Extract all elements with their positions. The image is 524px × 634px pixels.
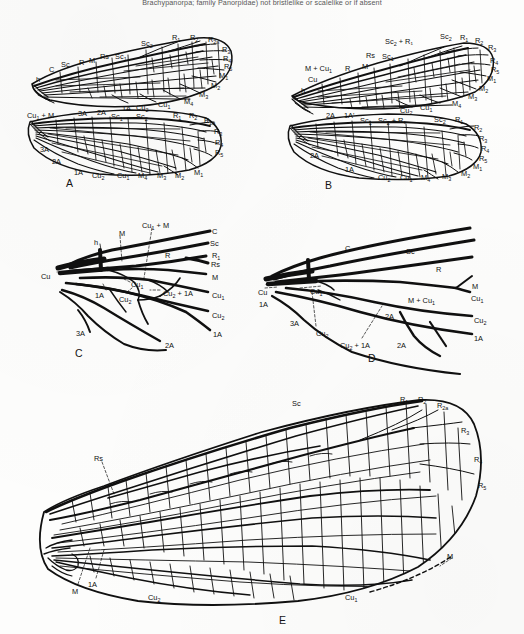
vein-label-b-forewing: M3 xyxy=(468,93,477,100)
vein-label-a-forewing: h xyxy=(36,76,40,83)
vein-label-a-hindwing: 3A xyxy=(78,110,87,117)
vein-label-b-forewing: Cu2 xyxy=(400,107,412,114)
vein-label-b-forewing: R xyxy=(345,65,350,72)
vein-label-a-forewing: R5 xyxy=(224,63,232,70)
vein-label-b-forewing: M2 xyxy=(479,85,488,92)
figure-letter-e: E xyxy=(279,614,286,626)
vein-label-b-forewing: M1 xyxy=(487,75,496,82)
vein-label-b-hindwing: M3 xyxy=(442,173,451,180)
vein-label-c: Cu2 + 1A xyxy=(163,290,193,297)
vein-label-e: M xyxy=(447,553,453,560)
vein-label-a-forewing: Cu1 xyxy=(158,101,170,108)
vein-label-a-forewing: R3 xyxy=(222,46,230,53)
vein-label-c: Rs xyxy=(211,261,220,268)
vein-label-a-hindwing: R4 xyxy=(215,139,223,146)
vein-label-a-hindwing: 2A xyxy=(52,158,61,165)
vein-label-b-forewing: Cu xyxy=(308,76,317,83)
vein-label-a-forewing: M3 xyxy=(199,91,208,98)
vein-label-d: M xyxy=(472,283,478,290)
vein-label-a-forewing: R xyxy=(79,59,84,66)
vein-label-c: Cu xyxy=(41,273,50,280)
vein-label-a-hindwing: R2 xyxy=(189,112,197,119)
vein-label-c: 3A xyxy=(76,330,85,337)
vein-label-e: R5 xyxy=(478,482,486,489)
vein-label-e: M xyxy=(72,588,78,595)
vein-label-b-forewing: R4 xyxy=(490,57,498,64)
figure-e-full-wing xyxy=(40,400,481,605)
vein-label-e: R3 xyxy=(461,427,469,434)
vein-label-b-forewing: Rs xyxy=(366,52,375,59)
vein-label-a-hindwing: Cu1 + M xyxy=(27,112,54,119)
vein-label-b-hindwing: R3 xyxy=(479,135,487,142)
vein-label-d: 2A xyxy=(397,342,406,349)
vein-label-c: R xyxy=(165,252,170,259)
vein-label-c: 2A xyxy=(165,342,174,349)
vein-label-a-forewing: 2A xyxy=(97,109,106,116)
vein-label-b-hindwing: 1A xyxy=(345,166,354,173)
vein-label-a-forewing: R2a xyxy=(208,36,219,43)
vein-label-b-hindwing: Cu1 xyxy=(400,174,412,181)
vein-label-a-forewing: R1 xyxy=(172,34,180,41)
wing-venation-drawings xyxy=(0,0,524,634)
vein-label-e: R2 xyxy=(418,396,426,403)
vein-label-a-hindwing: M1 xyxy=(194,169,203,176)
vein-label-b-forewing: 1A' xyxy=(344,112,354,119)
vein-label-a-forewing: Sc1 xyxy=(115,53,127,60)
vein-label-d: Cu1 xyxy=(310,288,322,295)
vein-label-a-forewing: M2 xyxy=(211,82,220,89)
vein-label-b-forewing: R5 xyxy=(491,66,499,73)
vein-label-e: Cu2 xyxy=(148,594,160,601)
vein-label-a-forewing: 1A xyxy=(122,105,131,112)
vein-label-b-forewing: M xyxy=(362,63,368,70)
vein-label-d: C xyxy=(345,245,350,252)
vein-label-b-forewing: Cu1 xyxy=(420,104,432,111)
vein-label-c: Sc xyxy=(210,240,219,247)
vein-label-b-hindwing: Sc2 xyxy=(434,116,446,123)
vein-label-c: h xyxy=(94,239,98,246)
vein-label-b-hindwing: Sc2 + R₁ xyxy=(378,117,406,124)
vein-label-e: Cu1 xyxy=(345,594,357,601)
vein-label-d: 1A xyxy=(259,301,268,308)
vein-label-c: Cu2 xyxy=(212,312,224,319)
figure-plate: Brachypanorpa; family Panorpidae) not br… xyxy=(0,0,524,634)
vein-label-a-forewing: M xyxy=(89,57,95,64)
vein-label-e: Sc xyxy=(292,400,301,407)
vein-label-b-forewing: 2A xyxy=(326,112,335,119)
vein-label-b-hindwing: Cu2 xyxy=(378,174,390,181)
vein-label-b-hindwing: M1 xyxy=(473,163,482,170)
vein-label-b-hindwing: M4 xyxy=(421,174,430,181)
vein-label-b-hindwing: M2 xyxy=(461,170,470,177)
vein-label-e: 1A xyxy=(88,581,97,588)
vein-label-a-forewing: R2 xyxy=(190,34,198,41)
vein-label-b-hindwing: Sc1 xyxy=(360,117,372,124)
vein-label-d: 1A xyxy=(474,335,483,342)
vein-label-a-forewing: Cu2 xyxy=(136,104,148,111)
figure-letter-d: D xyxy=(368,352,376,364)
vein-label-a-hindwing: R3 xyxy=(214,128,222,135)
vein-label-a-forewing: Sc2 xyxy=(136,113,148,120)
vein-label-d: Cu xyxy=(258,289,267,296)
vein-label-c: C xyxy=(212,228,217,235)
vein-label-c: Cu2 xyxy=(119,296,131,303)
vein-label-c: M xyxy=(119,230,125,237)
vein-label-b-hindwing: R5 xyxy=(479,155,487,162)
vein-label-b-forewing: h xyxy=(301,87,305,94)
vein-label-d: Cu2 xyxy=(474,317,486,324)
vein-label-d: R xyxy=(436,266,441,273)
vein-label-a-hindwing: M4 xyxy=(138,172,147,179)
vein-label-e: R1 xyxy=(400,396,408,403)
vein-label-c: M xyxy=(212,274,218,281)
vein-label-a-hindwing: Cu1 xyxy=(117,172,129,179)
vein-label-a-hindwing: R2a xyxy=(204,117,215,124)
vein-label-e: R4 xyxy=(474,456,482,463)
vein-label-b-forewing: R1 xyxy=(460,34,468,41)
vein-label-b-forewing: Sc2 xyxy=(440,33,452,40)
vein-label-b-hindwing: R1 xyxy=(455,116,463,123)
vein-label-a-forewing: M1 xyxy=(219,72,228,79)
vein-label-d: 2A xyxy=(385,313,394,320)
vein-label-d: Cu2 xyxy=(316,330,328,337)
vein-label-c: 1A xyxy=(95,292,104,299)
vein-label-b-hindwing: R4 xyxy=(481,145,489,152)
vein-label-b-forewing: R2 xyxy=(475,37,483,44)
vein-label-a-hindwing: Cu2 xyxy=(92,172,104,179)
